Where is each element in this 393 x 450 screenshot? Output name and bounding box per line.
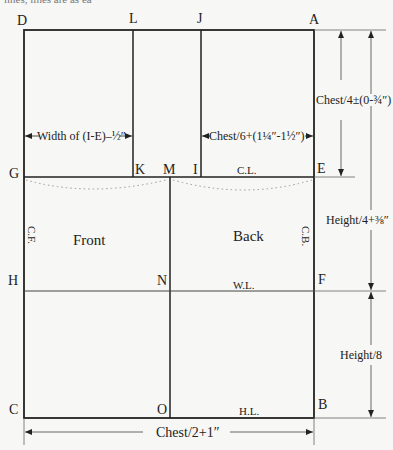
point-J: J xyxy=(197,12,202,26)
point-N: N xyxy=(157,274,167,288)
back-width-measure: Chest/6+(1¼″-1½″) xyxy=(209,130,304,142)
waist-line-label: W.L. xyxy=(233,280,255,291)
point-A: A xyxy=(309,13,319,27)
point-H: H xyxy=(8,274,18,288)
point-B: B xyxy=(318,398,327,412)
point-D: D xyxy=(17,14,27,28)
front-panel-label: Front xyxy=(73,233,106,248)
point-F: F xyxy=(318,273,326,287)
hip-depth-measure: Height/8 xyxy=(340,349,382,361)
chest-depth-measure: Chest/4±(0-¾″) xyxy=(316,94,391,106)
point-L: L xyxy=(129,12,138,26)
point-O: O xyxy=(157,403,167,417)
hip-line-label: H.L. xyxy=(239,406,259,417)
center-back-label: C.B. xyxy=(300,226,311,246)
front-width-measure: Width of (I-E)–½″ xyxy=(37,130,126,142)
point-G: G xyxy=(9,167,19,181)
center-front-label: C.F. xyxy=(26,226,37,244)
point-M: M xyxy=(163,163,175,177)
total-width-measure: Chest/2+1″ xyxy=(156,426,220,440)
back-panel-label: Back xyxy=(233,229,264,244)
point-C: C xyxy=(9,403,18,417)
front-armhole-curve xyxy=(26,180,166,189)
back-armhole-curve xyxy=(173,180,312,190)
chest-line-label: C.L. xyxy=(237,165,257,176)
waist-depth-measure: Height/4+⅜″ xyxy=(326,214,389,226)
point-K: K xyxy=(135,163,145,177)
point-E: E xyxy=(317,162,326,176)
point-I: I xyxy=(193,163,198,177)
outer-frame xyxy=(24,30,314,418)
